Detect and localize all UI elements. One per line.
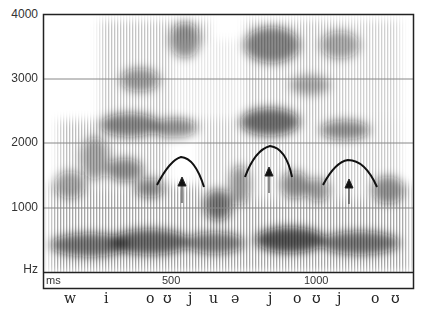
x-tick-500: 500 <box>162 274 180 286</box>
x-unit-ms: ms <box>46 274 61 286</box>
phoneme: o <box>293 290 301 306</box>
phoneme: ʊ <box>391 290 400 306</box>
y-tick-1000: 1000 <box>0 200 38 214</box>
phoneme: o <box>146 290 154 306</box>
phoneme: ʊ <box>312 290 321 306</box>
phoneme: i <box>104 290 108 306</box>
phoneme: j <box>188 290 192 306</box>
phoneme: j <box>337 290 341 306</box>
phoneme: o <box>371 290 379 306</box>
phoneme: j <box>268 290 272 306</box>
phoneme: ə <box>231 290 239 306</box>
y-tick-3000: 3000 <box>0 71 38 85</box>
x-tick-1000: 1000 <box>304 274 328 286</box>
y-tick-4000: 4000 <box>0 7 38 21</box>
y-tick-2000: 2000 <box>0 135 38 149</box>
phoneme: ʊ <box>163 290 172 306</box>
phoneme: u <box>209 290 218 306</box>
spectrogram-plot <box>0 0 427 321</box>
phoneme: w <box>64 290 76 306</box>
y-unit-hz: Hz <box>0 262 38 276</box>
